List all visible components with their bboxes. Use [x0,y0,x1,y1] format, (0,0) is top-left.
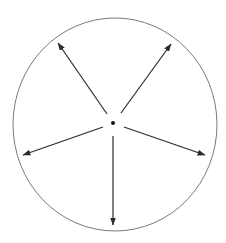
radial-arrows-diagram [0,0,226,243]
arrow-lower-right [124,127,205,155]
arrow-lower-left [23,127,103,155]
diagram-canvas [0,0,226,243]
boundary-circle [13,18,217,231]
center-point [111,121,115,125]
arrow-upper-left [58,43,107,114]
arrow-upper-right [121,44,171,113]
arrow-group [23,43,205,225]
